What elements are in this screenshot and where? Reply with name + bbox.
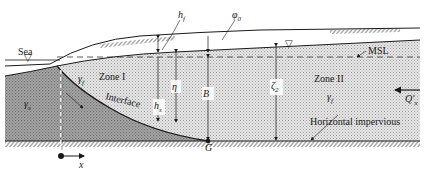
hf-label: hf [178, 9, 186, 23]
b-label: B [203, 88, 209, 99]
zone1-label: Zone I [99, 71, 125, 82]
ground-surface-hatch-left [100, 38, 175, 46]
x-axis-label: x [78, 159, 84, 169]
water-table-symbol-icon: ▽ [285, 38, 293, 49]
phi0-label: φ0 [232, 9, 242, 23]
msl-label: MSL [368, 45, 389, 56]
phi0-leader [222, 20, 235, 40]
zone2-label: Zone II [314, 73, 344, 84]
hf-leader [162, 20, 180, 50]
impervious-base-hatch [5, 141, 420, 147]
toe-point-label: G [205, 142, 212, 153]
sea-label: Sea [18, 46, 33, 57]
coastal-aquifer-diagram: x ▽ ▽ Sea hf φ0 MSL Zone I Zone II γf γs… [0, 0, 430, 169]
eta-label: η [172, 81, 177, 92]
horizontal-impervious-label: Horizontal impervious [310, 116, 400, 127]
ground-surface-hatch-right [330, 30, 400, 32]
